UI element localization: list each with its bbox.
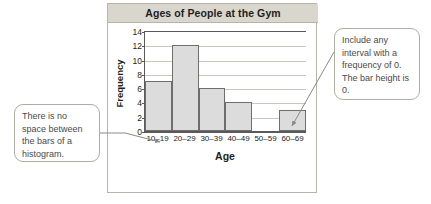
x-axis-tick-labels: 10–1920–2930–3940–4950–5960–69: [144, 134, 306, 143]
bar-40-49: [225, 102, 252, 131]
bar-series: [145, 32, 306, 131]
bar-30-39: [199, 88, 226, 131]
bar-slot: [279, 32, 306, 131]
x-axis-label: Age: [144, 150, 306, 162]
bar-slot: [172, 32, 199, 131]
y-axis-label: Frequency: [114, 54, 125, 114]
x-tick-label: 20–29: [171, 134, 198, 143]
x-axis-line: [144, 131, 306, 133]
x-tick-label: 10–19: [144, 134, 171, 143]
plot-wrapper: Frequency 02468101214 10–1920–2930–3940–…: [108, 23, 318, 193]
chart-title-bar: Ages of People at the Gym: [108, 4, 318, 23]
bar-slot: [225, 32, 252, 131]
y-tick-label: 12: [133, 41, 142, 51]
bar-slot: [252, 32, 279, 131]
histogram-panel: Ages of People at the Gym Frequency 0246…: [107, 3, 317, 193]
bar-slot: [145, 32, 172, 131]
plot-area: 02468101214: [144, 31, 306, 131]
x-tick-label: 50–59: [252, 134, 279, 143]
bar-60-69: [279, 110, 306, 131]
callout-zero-frequency-interval: Include any interval with a frequency of…: [334, 28, 420, 100]
callout-left-text: There is no space between the bars of a …: [22, 111, 83, 159]
x-tick-label: 60–69: [279, 134, 306, 143]
callout-right-text: Include any interval with a frequency of…: [342, 35, 409, 95]
x-tick-label: 30–39: [198, 134, 225, 143]
bar-20-29: [172, 45, 199, 131]
y-tick-label: 10: [133, 56, 142, 66]
x-tick-label: 40–49: [225, 134, 252, 143]
bar-slot: [199, 32, 226, 131]
y-tick-label: 14: [133, 27, 142, 37]
chart-title: Ages of People at the Gym: [145, 7, 281, 19]
bar-10-19: [145, 81, 172, 131]
callout-no-space-between-bars: There is no space between the bars of a …: [14, 104, 100, 162]
